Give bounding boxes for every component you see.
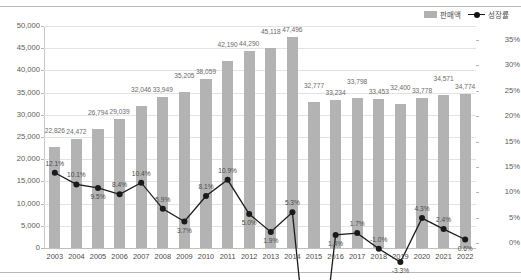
growth-point-marker — [419, 215, 425, 221]
y-tick-mark-right — [476, 40, 479, 41]
x-axis-labels: 2003200420052006200720082009201020112012… — [44, 252, 476, 266]
y-tick-mark-right — [476, 142, 479, 143]
line-marker-icon — [468, 11, 485, 18]
gridline — [44, 248, 476, 249]
x-axis-label: 2022 — [451, 252, 479, 261]
growth-point-marker — [441, 226, 447, 232]
bottom-divider — [0, 272, 521, 273]
growth-point-marker — [225, 177, 231, 183]
y-tick-left: 20,000 — [0, 154, 40, 163]
growth-point-marker — [73, 181, 79, 187]
y-tick-mark-right — [476, 116, 479, 117]
line-series — [44, 26, 476, 248]
y-tick-right: 15% — [490, 137, 520, 146]
legend-item-growth: 성장률 — [468, 9, 509, 20]
y-tick-mark-right — [476, 91, 479, 92]
growth-value-label: 8.4% — [104, 181, 136, 188]
y-tick-right: 15% — [490, 162, 520, 171]
growth-point-marker — [289, 209, 295, 215]
y-tick-mark-right — [476, 167, 479, 168]
growth-value-label: 5.0% — [233, 219, 265, 226]
growth-point-marker — [160, 206, 166, 212]
y-tick-mark-right — [476, 65, 479, 66]
y-tick-left: 0 — [0, 243, 40, 252]
bar-swatch-icon — [424, 11, 437, 18]
growth-point-marker — [52, 170, 58, 176]
growth-point-marker — [462, 237, 468, 243]
growth-point-marker — [268, 229, 274, 235]
legend-label-sales: 판매액 — [440, 9, 461, 20]
y-tick-left: 5,000 — [0, 221, 40, 230]
growth-value-label: 10.1% — [60, 171, 92, 178]
y-tick-mark-right — [476, 218, 479, 219]
y-tick-left: 35,000 — [0, 88, 40, 97]
growth-point-marker — [354, 230, 360, 236]
growth-value-label: 3.7% — [168, 227, 200, 234]
growth-value-label: 4.3% — [406, 205, 438, 212]
growth-value-label: 10.9% — [212, 167, 244, 174]
growth-value-label: 0.6% — [449, 245, 481, 252]
y-tick-left: 25,000 — [0, 132, 40, 141]
growth-value-label: 8.1% — [190, 183, 222, 190]
y-tick-left: 10,000 — [0, 199, 40, 208]
growth-value-label: 5.9% — [147, 196, 179, 203]
y-tick-left: 50,000 — [0, 21, 40, 30]
growth-point-marker — [138, 180, 144, 186]
chart-root: 판매액 성장률 (십억 원) 50,00045,00040,00035,0003… — [0, 0, 521, 280]
growth-point-marker — [246, 211, 252, 217]
chart-legend: 판매액 성장률 — [424, 9, 509, 20]
growth-value-label: -1.0% — [363, 236, 395, 243]
y-tick-left: 40,000 — [0, 65, 40, 74]
growth-value-label: 10.4% — [125, 170, 157, 177]
y-tick-right: 5% — [490, 213, 520, 222]
growth-value-label: 5.3% — [276, 199, 308, 206]
growth-value-label: -3.3% — [384, 267, 416, 274]
growth-value-label: 12.1% — [39, 160, 71, 167]
y-tick-left: 45,000 — [0, 43, 40, 52]
top-divider — [0, 6, 521, 7]
y-tick-right: 35% — [490, 35, 520, 44]
y-tick-right: 25% — [490, 86, 520, 95]
y-tick-mark-right — [476, 192, 479, 193]
growth-point-marker — [95, 185, 101, 191]
y-tick-left: 30,000 — [0, 110, 40, 119]
growth-point-marker — [181, 219, 187, 225]
legend-item-sales: 판매액 — [424, 9, 461, 20]
y-tick-left: 15,000 — [0, 176, 40, 185]
growth-value-label: 1.4% — [320, 240, 352, 247]
growth-point-marker — [203, 193, 209, 199]
legend-label-growth: 성장률 — [488, 9, 509, 20]
y-tick-right: 30% — [490, 60, 520, 69]
growth-value-label: 9.5% — [82, 193, 114, 200]
growth-point-marker — [333, 232, 339, 238]
growth-value-label: 1.7% — [341, 220, 373, 227]
plot-area: 22,82624,47226,79429,03932,04633,94935,2… — [44, 26, 476, 248]
y-tick-right: 20% — [490, 111, 520, 120]
y-tick-right: 0% — [490, 238, 520, 247]
growth-point-marker — [117, 191, 123, 197]
growth-point-marker — [376, 246, 382, 252]
y-tick-right: 10% — [490, 187, 520, 196]
growth-value-label: 1.9% — [255, 237, 287, 244]
growth-value-label: 2.4% — [428, 216, 460, 223]
